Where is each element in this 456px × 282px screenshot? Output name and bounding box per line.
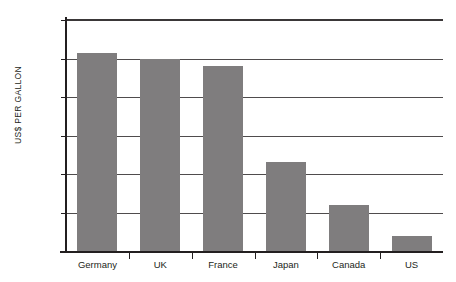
x-axis-label-japan: Japan xyxy=(255,258,318,272)
bar-germany xyxy=(77,53,117,251)
x-axis-label-us: US xyxy=(380,258,443,272)
bar-us xyxy=(392,236,432,251)
plot-area: 6.005.004.003.002.001.00$0 xyxy=(66,19,443,252)
x-axis-line xyxy=(60,251,443,253)
y-axis-title: US$ PER GALLON xyxy=(10,35,26,175)
x-axis-label-uk: UK xyxy=(129,258,192,272)
x-axis-label-germany: Germany xyxy=(66,258,129,272)
bar-france xyxy=(203,66,243,251)
bar-canada xyxy=(329,205,369,251)
x-axis-label-canada: Canada xyxy=(317,258,380,272)
bar-uk xyxy=(140,59,180,252)
x-axis-labels-group: GermanyUKFranceJapanCanadaUS xyxy=(60,258,450,274)
x-axis-label-france: France xyxy=(192,258,255,272)
bars-group xyxy=(66,19,443,252)
bar-japan xyxy=(266,162,306,251)
bar-chart: US$ PER GALLON 6.005.004.003.002.001.00$… xyxy=(0,0,456,282)
